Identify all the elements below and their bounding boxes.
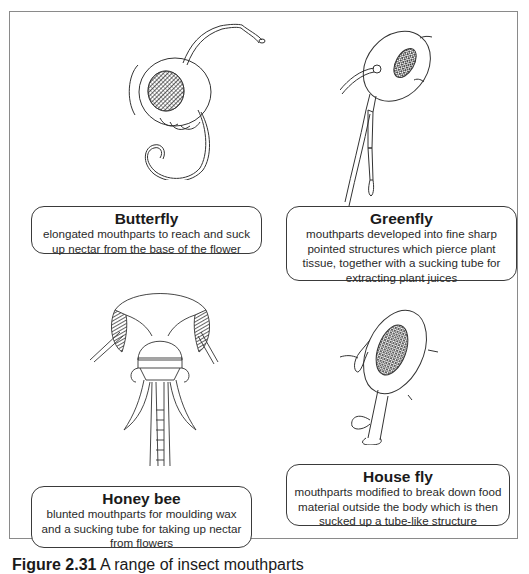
honey-bee-label-box: Honey bee blunted mouthparts for mouldin… [31,486,252,548]
greenfly-description-line-4: extracting plant juices [293,271,510,286]
butterfly-title: Butterfly [38,210,255,227]
house-fly-description-line-1: mouthparts modified to break down food [293,485,503,500]
butterfly-label-box: Butterfly elongated mouthparts to reach … [31,206,262,254]
greenfly-title: Greenfly [293,210,510,227]
greenfly-description-line-2: pointed structures which pierce plant [293,242,510,257]
butterfly-description-line-2: up nectar from the base of the flower [38,242,255,257]
honey-bee-description-line-1: blunted mouthparts for moulding wax [38,507,245,522]
greenfly-head-drawing [340,30,480,230]
figure-caption-number: Figure 2.31 [12,556,96,573]
figure-caption: Figure 2.31 A range of insect mouthparts [12,556,304,574]
house-fly-label-box: House fly mouthparts modified to break d… [286,464,510,526]
figure-caption-text: A range of insect mouthparts [100,556,304,573]
greenfly-label-box: Greenfly mouthparts developed into fine … [286,206,517,281]
greenfly-description-line-1: mouthparts developed into fine sharp [293,227,510,242]
house-fly-description-line-3: sucked up a tube-like structure [293,514,503,529]
house-fly-title: House fly [293,468,503,485]
honey-bee-title: Honey bee [38,490,245,507]
greenfly-description-line-3: tissue, together with a sucking tube for [293,256,510,271]
house-fly-head-drawing [330,300,470,445]
butterfly-description-line-1: elongated mouthparts to reach and suck [38,227,255,242]
honey-bee-description-line-2: and a sucking tube for taking up nectar [38,522,245,537]
house-fly-description-line-2: material outside the body which is then [293,500,503,515]
honey-bee-description-line-3: from flowers [38,536,245,551]
butterfly-head-drawing [120,10,290,180]
honey-bee-head-drawing [80,270,240,470]
